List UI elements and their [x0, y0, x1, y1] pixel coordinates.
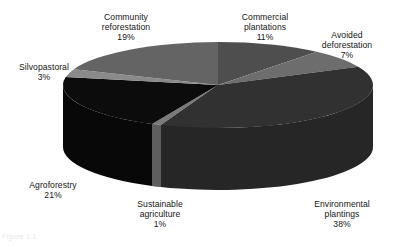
slice-label-line2: plantations	[244, 22, 286, 32]
slice-label-line2: deforestation	[322, 40, 372, 50]
slice-label-silvopastoral: Silvopastoral 3%	[0, 62, 90, 82]
slice-label-percent: 21%	[6, 190, 100, 200]
slice-label-line2: plantings	[325, 209, 360, 219]
slice-label-environmental-plantings: Environmental plantings 38%	[292, 199, 392, 230]
slice-label-line1: Avoided	[331, 30, 362, 40]
slice-label-line1: Sustainable	[137, 199, 182, 209]
slice-label-line1: Community	[104, 12, 148, 22]
slice-label-sustainable-agriculture: Sustainable agriculture 1%	[110, 199, 210, 230]
slice-label-line1: Commercial	[242, 12, 288, 22]
slice-label-community-reforestation: Community reforestation 19%	[66, 12, 186, 43]
chart-canvas: Community reforestation 19% Commercial p…	[0, 0, 394, 247]
slice-label-line1: Silvopastoral	[19, 62, 69, 72]
slice-label-agroforestry: Agroforestry 21%	[6, 180, 100, 200]
slice-label-line2: reforestation	[102, 22, 150, 32]
slice-label-line1: Environmental	[314, 199, 370, 209]
slice-label-percent: 7%	[300, 50, 394, 60]
slice-label-line1: Agroforestry	[29, 180, 76, 190]
slice-label-line2: agriculture	[140, 209, 181, 219]
slice-label-percent: 38%	[292, 219, 392, 229]
caption-artifact: Figure 1.1	[2, 233, 37, 240]
slice-label-avoided-deforestation: Avoided deforestation 7%	[300, 30, 394, 61]
slice-label-percent: 1%	[110, 219, 210, 229]
slice-label-percent: 3%	[0, 72, 90, 82]
slice-label-percent: 19%	[66, 32, 186, 42]
